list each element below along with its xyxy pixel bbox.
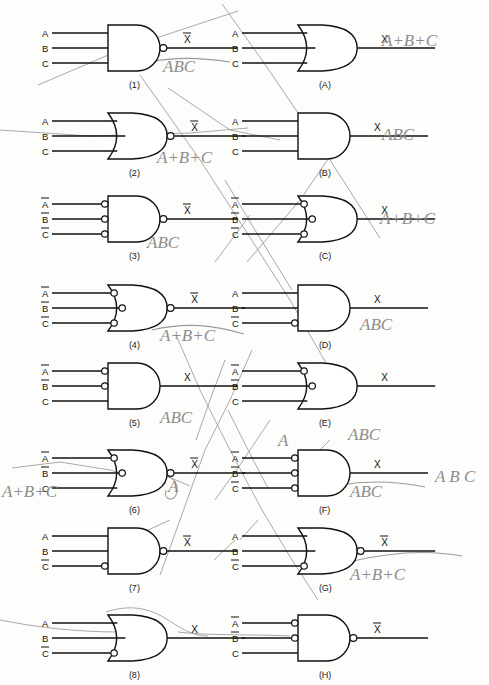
note-apbpc-gateC: A+B+C xyxy=(379,209,436,228)
note-abc-gate5: ABC xyxy=(159,408,193,427)
note-apbpc-gate4: A+B+C xyxy=(159,326,216,345)
worksheet-page: ABCX(1)ABCX(A)ABCX(2)ABCX(B)ABCX(3)ABCX(… xyxy=(0,0,489,685)
note-apbpc-gateG: A+B+C xyxy=(349,565,406,584)
note-apbpc-gate2: A+B+C xyxy=(156,148,213,167)
note-apbpc-gate6: A+B+C xyxy=(1,482,58,501)
note-abc-gateE: ABC xyxy=(347,425,381,444)
note-abc-gateF: ABC xyxy=(349,482,383,501)
handwritten-annotation-layer: ABCA+B+CABCA+B+CABCA+B+CAA+B+CABCA+B+CAB… xyxy=(0,0,489,685)
note-a-gate6: A xyxy=(167,477,179,496)
note-abc-gateB: ABC xyxy=(381,125,415,144)
note-abc-gateD: ABC xyxy=(359,315,393,334)
note-apbpc-gateA: A+B+C xyxy=(381,31,438,50)
note-abc-gate1: ABC xyxy=(162,57,196,76)
note-abc-gate3: ABC xyxy=(146,233,180,252)
note-a-gateE: A xyxy=(277,431,289,450)
note-abarbbarcbar: A B C xyxy=(434,467,476,486)
